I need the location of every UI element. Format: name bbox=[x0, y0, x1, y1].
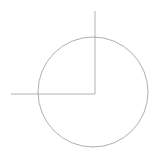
circle-outline bbox=[38, 37, 148, 147]
figure-canvas bbox=[0, 0, 163, 162]
geometry-svg bbox=[0, 0, 163, 162]
